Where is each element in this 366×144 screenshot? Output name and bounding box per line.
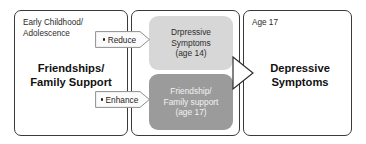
- box-depressive-symptoms-age14: Drpressive Symptoms (age 14): [149, 16, 233, 70]
- arrow-enhance-label-wrap: Enhance: [95, 91, 142, 108]
- bullet-icon: [103, 38, 105, 40]
- arrow-enhance: Enhance: [95, 91, 150, 108]
- stage-label-age-17: Age 17: [252, 18, 342, 29]
- arrow-to-outcome-shape: [233, 57, 253, 89]
- arrow-reduce-label-wrap: Reduce: [95, 31, 142, 48]
- arrow-enhance-label: Enhance: [106, 95, 139, 105]
- bullet-icon: [101, 98, 103, 100]
- box-friendship-family-support-age17: Friendship/ Family support (age 17): [149, 74, 233, 130]
- right-panel-main-text: Depressive Symptoms: [250, 62, 350, 89]
- arrow-reduce-label: Reduce: [108, 35, 137, 45]
- arrow-to-outcome: [232, 56, 254, 90]
- left-panel-main-text: Friendships/ Family Support: [14, 62, 128, 89]
- flow-diagram: Early Childhood/ Adolescence Friendships…: [0, 0, 366, 144]
- arrow-reduce: Reduce: [95, 31, 150, 48]
